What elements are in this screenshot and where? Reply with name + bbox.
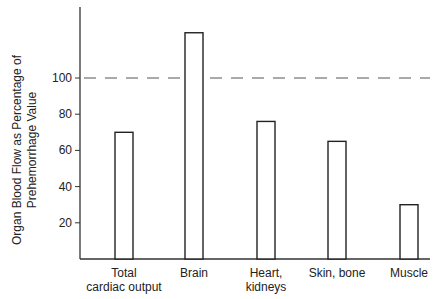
x-tick-label: Skin, bone [309, 266, 366, 280]
y-axis-label-line: Prehemorrhage Value [25, 91, 39, 208]
y-tick-label: 80 [59, 107, 73, 121]
bar-muscle [400, 205, 418, 259]
bar-brain [185, 33, 203, 259]
y-axis-label-line: Organ Blood Flow as Percentage of [10, 54, 24, 245]
x-tick-label: Muscle [390, 266, 428, 280]
x-tick-label: Heart, [250, 266, 283, 280]
x-tick-label: Brain [180, 266, 208, 280]
x-tick-label: Total [111, 266, 136, 280]
x-tick-label: cardiac output [86, 280, 162, 294]
bar-skin-bone [328, 141, 346, 259]
bar-chart: 20406080100Totalcardiac outputBrainHeart… [0, 0, 435, 299]
y-tick-label: 100 [52, 71, 72, 85]
y-tick-label: 60 [59, 143, 73, 157]
y-tick-label: 20 [59, 216, 73, 230]
bar-total-cardiac-output [115, 132, 133, 259]
y-axis-label: Organ Blood Flow as Percentage ofPrehemo… [10, 54, 39, 245]
y-tick-label: 40 [59, 180, 73, 194]
x-tick-label: kidneys [246, 280, 287, 294]
bar-heart-kidneys [257, 121, 275, 259]
